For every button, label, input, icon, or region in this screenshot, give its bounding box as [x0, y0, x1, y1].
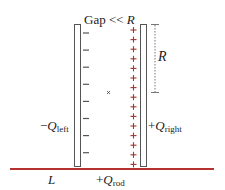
gap-label: Gap << R	[84, 13, 135, 26]
radius-label: R	[158, 50, 167, 64]
plus-charge	[131, 65, 137, 71]
gap-label-text: Gap <<	[84, 12, 127, 27]
plus-charge	[131, 113, 137, 119]
negative-charges	[83, 33, 89, 153]
right-plate-charge-label: +Qright	[148, 119, 182, 132]
rod-charge-label: +Qrod	[96, 173, 125, 186]
plus-charge	[131, 27, 137, 33]
plus-charge	[131, 94, 137, 100]
plus-charge	[131, 142, 137, 148]
plus-charge	[131, 152, 137, 158]
left-plate	[75, 25, 81, 167]
left-plate-charge-label: −Qleft	[40, 119, 69, 132]
plus-charge	[131, 37, 137, 43]
plus-charge	[131, 85, 137, 91]
left-charge-variable: Q	[47, 118, 56, 133]
positive-charges	[131, 27, 137, 167]
rod-length-label: L	[48, 173, 55, 186]
diagram-canvas	[0, 0, 225, 190]
plus-charge	[131, 75, 137, 81]
right-charge-variable: Q	[155, 118, 164, 133]
capacitor-diagram: Gap << R R −Qleft +Qright L +Qrod	[0, 0, 225, 190]
plus-charge	[131, 46, 137, 52]
plus-charge	[131, 56, 137, 62]
plus-charge	[131, 161, 137, 167]
right-plate	[141, 25, 147, 167]
center-point-marker	[107, 91, 110, 94]
plus-charge	[131, 104, 137, 110]
plus-charge	[131, 123, 137, 129]
left-charge-subscript: left	[57, 124, 69, 134]
gap-label-variable: R	[127, 12, 135, 27]
rod-charge-subscript: rod	[113, 178, 125, 188]
right-charge-subscript: right	[165, 124, 182, 134]
plus-charge	[131, 133, 137, 139]
rod-charge-variable: Q	[103, 172, 112, 187]
